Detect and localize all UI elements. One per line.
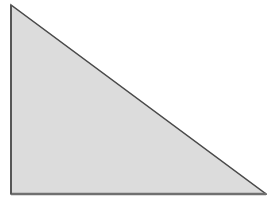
diagram-canvas [0, 0, 267, 202]
right-triangle [11, 5, 266, 194]
